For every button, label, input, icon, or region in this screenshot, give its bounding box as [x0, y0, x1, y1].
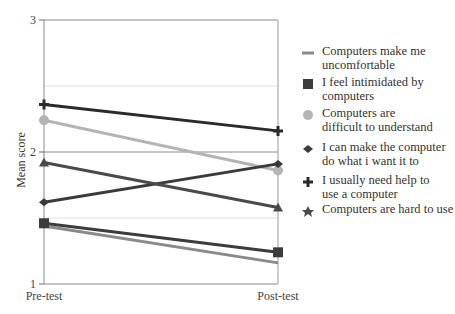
legend-label-line: I usually need help to [322, 173, 430, 187]
legend-symbol [303, 110, 313, 120]
legend-label-line: Computers make me [322, 44, 425, 58]
legend-symbol [303, 177, 313, 187]
legend-label-line: Computers are [322, 106, 433, 120]
legend-marker-diamond-icon [300, 142, 316, 156]
legend-marker-triangle-icon [300, 204, 316, 218]
y-tick-label: 3 [30, 13, 36, 27]
legend-symbol [302, 52, 314, 55]
legend-marker-circle-icon [300, 108, 316, 122]
x-tick-label: Pre-test [26, 289, 63, 303]
legend-label-line: computers [322, 89, 424, 103]
data-point-diamond [39, 198, 49, 206]
legend-label-line: I feel intimidated by [322, 75, 424, 89]
x-ticks: Pre-testPost-test [26, 289, 300, 303]
legend-item: Computers are hard to use [300, 202, 455, 218]
legend-item: I feel intimidated bycomputers [300, 75, 455, 103]
x-tick-label: Post-test [257, 289, 299, 303]
legend-marker-cross-icon [300, 175, 316, 189]
legend-label-line: difficult to understand [322, 120, 433, 134]
legend-label: I feel intimidated bycomputers [322, 75, 424, 103]
legend-item: I usually need help touse a computer [300, 173, 455, 201]
y-ticks: 123 [30, 13, 44, 291]
data-point-circle [39, 115, 49, 125]
series-0 [44, 226, 278, 263]
legend-label: Computers make meuncomfortable [322, 44, 425, 72]
series-4 [39, 99, 283, 135]
legend-label: Computers are hard to use [322, 202, 453, 216]
y-tick-label: 2 [30, 145, 36, 159]
legend-item: I can make the computerdo what i want it… [300, 140, 455, 168]
data-point-cross [273, 126, 283, 136]
series-5 [39, 158, 283, 212]
legend-marker-square-icon [300, 77, 316, 91]
series-3 [39, 160, 283, 206]
legend-symbol [303, 145, 313, 153]
series-line [44, 226, 278, 263]
legend-label-line: Computers are hard to use [322, 202, 453, 216]
series-group [39, 99, 283, 262]
series-1 [39, 218, 283, 257]
legend-label-line: I can make the computer [322, 140, 446, 154]
legend-item: Computers aredifficult to understand [300, 106, 455, 134]
series-line [44, 223, 278, 252]
legend-symbol [302, 206, 314, 217]
data-point-square [273, 247, 283, 257]
legend-item: Computers make meuncomfortable [300, 44, 455, 72]
legend-marker-dash-icon [300, 46, 316, 60]
legend-label-line: use a computer [322, 187, 430, 201]
legend-label: I usually need help touse a computer [322, 173, 430, 201]
legend-label-line: do what i want it to [322, 154, 446, 168]
data-point-diamond [273, 160, 283, 168]
legend-label: Computers aredifficult to understand [322, 106, 433, 134]
legend-label: I can make the computerdo what i want it… [322, 140, 446, 168]
legend-symbol [303, 79, 313, 89]
data-point-cross [39, 99, 49, 109]
y-axis-title: Mean score [14, 132, 28, 188]
series-2 [39, 115, 283, 175]
data-point-square [39, 218, 49, 228]
legend-label-line: uncomfortable [322, 58, 425, 72]
